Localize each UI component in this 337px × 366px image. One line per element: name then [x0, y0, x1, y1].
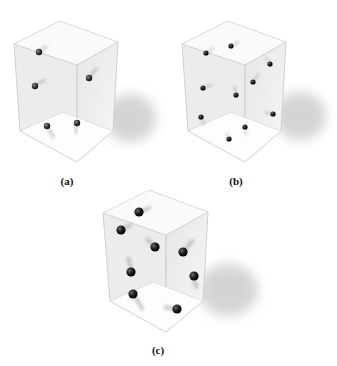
- particle: [116, 225, 125, 234]
- particle: [74, 120, 80, 126]
- particle: [242, 124, 247, 129]
- panel-label-b: (b): [216, 175, 256, 187]
- particle: [203, 50, 208, 55]
- particle: [44, 123, 50, 129]
- box-shadow: [198, 264, 258, 316]
- particle: [226, 136, 231, 141]
- panel-label-a: (a): [47, 175, 87, 187]
- panel-c: [103, 190, 258, 332]
- particle: [267, 61, 272, 66]
- particle: [150, 242, 159, 251]
- particle: [270, 111, 275, 116]
- particle: [134, 207, 143, 216]
- particle: [200, 85, 205, 90]
- particle: [233, 92, 238, 97]
- panel-a: [14, 21, 156, 162]
- particle: [128, 289, 137, 298]
- particle: [86, 75, 92, 81]
- panel-b: [182, 21, 326, 162]
- particle: [126, 267, 135, 276]
- particle: [172, 304, 181, 313]
- particle: [178, 247, 187, 256]
- particle: [198, 114, 203, 119]
- particle: [36, 49, 42, 55]
- particle: [189, 271, 198, 280]
- particle: [32, 83, 38, 89]
- panel-label-c: (c): [138, 344, 178, 356]
- particle: [228, 43, 233, 48]
- particle: [250, 79, 255, 84]
